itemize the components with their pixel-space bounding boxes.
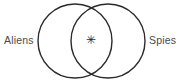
- intersection-asterisk-icon: ✳: [86, 33, 96, 47]
- venn-diagram: Aliens Spies ✳: [0, 0, 183, 82]
- venn-diagram-canvas: Aliens Spies ✳: [0, 0, 183, 82]
- right-set-label: Spies: [149, 34, 176, 46]
- left-set-circle[interactable]: [38, 4, 112, 78]
- left-set-label: Aliens: [4, 34, 34, 46]
- right-set-circle[interactable]: [71, 4, 145, 78]
